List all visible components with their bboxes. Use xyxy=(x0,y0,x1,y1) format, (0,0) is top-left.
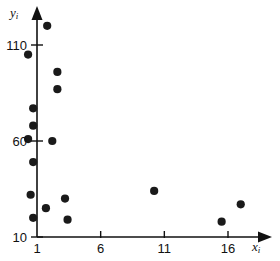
data-point xyxy=(29,104,37,112)
data-point xyxy=(29,122,37,130)
data-point xyxy=(150,187,158,195)
x-axis-title-subscript: i xyxy=(258,245,261,255)
data-point xyxy=(53,68,61,76)
y-axis-arrow-icon xyxy=(32,6,43,20)
y-axis-tick-label: 110 xyxy=(0,39,27,52)
data-point xyxy=(43,22,51,30)
y-axis-title: yi xyxy=(10,6,18,21)
x-axis-title: xi xyxy=(252,240,260,255)
data-point xyxy=(27,191,35,199)
chart-canvas xyxy=(0,0,280,261)
data-point xyxy=(42,204,50,212)
data-point xyxy=(48,137,56,145)
data-point xyxy=(61,195,69,203)
axes-group xyxy=(32,6,273,243)
data-points-group xyxy=(24,22,245,226)
data-point xyxy=(63,216,71,224)
data-point xyxy=(29,158,37,166)
data-point xyxy=(218,218,226,226)
data-point xyxy=(29,214,37,222)
y-axis-tick-label: 10 xyxy=(0,231,27,244)
y-axis-tick-label: 60 xyxy=(0,135,27,148)
x-axis-tick-label: 11 xyxy=(158,242,172,255)
x-axis-tick-label: 1 xyxy=(33,242,40,255)
x-axis-tick-label: 6 xyxy=(97,242,104,255)
y-axis-title-subscript: i xyxy=(16,11,19,21)
scatter-plot-figure: 1060110 161116 yi xi xyxy=(0,0,280,261)
data-point xyxy=(237,200,245,208)
data-point xyxy=(53,85,61,93)
x-axis-tick-label: 16 xyxy=(221,242,235,255)
